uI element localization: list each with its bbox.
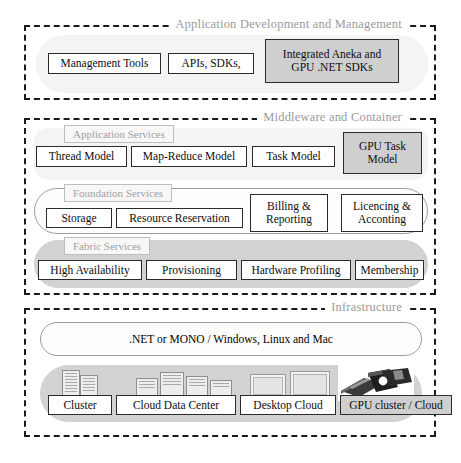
band-label-foundation-services: Foundation Services xyxy=(64,184,172,202)
item-licencing-and-acconting[interactable]: Licencing & Acconting xyxy=(341,194,423,232)
item-integrated-aneka-gpu-net-sdks[interactable]: Integrated Aneka and GPU .NET SDKs xyxy=(265,39,399,83)
item-thread-model[interactable]: Thread Model xyxy=(36,146,127,167)
item-task-model[interactable]: Task Model xyxy=(252,146,335,167)
section-title-infrastructure: Infrastructure xyxy=(325,300,408,315)
item-integrated-aneka-line1: Integrated Aneka and xyxy=(283,48,381,61)
item-map-reduce-model[interactable]: Map-Reduce Model xyxy=(131,146,247,167)
item-billing-and-reporting[interactable]: Billing & Reporting xyxy=(250,194,328,232)
band-label-fabric-services: Fabric Services xyxy=(64,237,150,255)
item-high-availability-label: High Availability xyxy=(50,264,129,277)
item-gpu-task-model-line2: Model xyxy=(367,153,397,166)
item-cluster-label: Cluster xyxy=(63,399,96,412)
item-management-tools[interactable]: Management Tools xyxy=(48,53,161,74)
band-label-application-services-text: Application Services xyxy=(73,128,165,140)
item-apis-sdks[interactable]: APIs, SDKs, xyxy=(168,53,254,74)
band-label-foundation-services-text: Foundation Services xyxy=(73,187,163,199)
item-gpu-task-model-line1: GPU Task xyxy=(359,140,406,153)
section-title-middleware: Middleware and Container xyxy=(257,110,408,125)
band-platform-runtime: .NET or MONO / Windows, Linux and Mac xyxy=(40,322,422,356)
item-hardware-profiling-label: Hardware Profiling xyxy=(251,264,340,277)
band-label-application-services: Application Services xyxy=(64,125,174,143)
item-provisioning[interactable]: Provisioning xyxy=(146,260,237,280)
item-membership-label: Membership xyxy=(360,264,418,277)
item-cloud-data-center-label: Cloud Data Center xyxy=(133,399,219,412)
section-title-application-development: Application Development and Management xyxy=(169,17,408,32)
item-management-tools-label: Management Tools xyxy=(60,57,148,70)
band-platform-runtime-label: .NET or MONO / Windows, Linux and Mac xyxy=(41,323,421,355)
section-middleware-and-container: Middleware and Container Application Ser… xyxy=(24,118,436,295)
item-apis-sdks-label: APIs, SDKs, xyxy=(181,57,240,70)
item-desktop-cloud[interactable]: Desktop Cloud xyxy=(240,395,336,415)
item-gpu-task-model[interactable]: GPU Task Model xyxy=(343,132,422,174)
item-integrated-aneka-line2: GPU .NET SDKs xyxy=(291,61,372,74)
item-gpu-cluster-cloud-label: GPU cluster / Cloud xyxy=(349,399,443,412)
band-label-fabric-services-text: Fabric Services xyxy=(73,240,141,252)
item-thread-model-label: Thread Model xyxy=(49,150,114,163)
item-resource-reservation-label: Resource Reservation xyxy=(129,212,230,225)
item-membership[interactable]: Membership xyxy=(355,260,424,280)
item-gpu-cluster-cloud[interactable]: GPU cluster / Cloud xyxy=(340,395,452,415)
item-map-reduce-model-label: Map-Reduce Model xyxy=(143,150,235,163)
item-licencing-line1: Licencing & xyxy=(353,200,411,213)
item-high-availability[interactable]: High Availability xyxy=(38,260,142,280)
item-billing-line2: Reporting xyxy=(266,213,312,226)
item-cloud-data-center[interactable]: Cloud Data Center xyxy=(116,395,236,415)
item-storage-label: Storage xyxy=(61,212,96,225)
item-resource-reservation[interactable]: Resource Reservation xyxy=(116,208,243,228)
item-licencing-line2: Acconting xyxy=(358,213,406,226)
item-hardware-profiling[interactable]: Hardware Profiling xyxy=(241,260,351,280)
item-storage[interactable]: Storage xyxy=(46,208,112,228)
item-task-model-label: Task Model xyxy=(266,150,320,163)
section-application-development-and-management: Application Development and Management M… xyxy=(24,25,436,100)
item-provisioning-label: Provisioning xyxy=(162,264,221,277)
item-billing-line1: Billing & xyxy=(267,200,311,213)
item-cluster[interactable]: Cluster xyxy=(48,395,112,415)
architecture-diagram: Application Development and Management M… xyxy=(0,0,461,463)
section-infrastructure: Infrastructure .NET or MONO / Windows, L… xyxy=(24,308,436,437)
item-desktop-cloud-label: Desktop Cloud xyxy=(253,399,322,412)
